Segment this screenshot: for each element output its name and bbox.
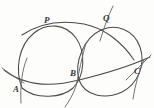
point-label-p: P [44, 16, 50, 25]
arc-left-tail [2, 68, 24, 83]
point-label-b: B [70, 69, 76, 78]
arc-left-circle [18, 26, 82, 96]
arc-right-circle [78, 27, 142, 96]
point-label-q: Q [103, 14, 110, 23]
arc-group [2, 6, 151, 107]
point-label-c: C [134, 67, 140, 76]
geometry-diagram: P Q A B C [0, 0, 154, 108]
point-label-a: A [13, 85, 19, 94]
diagram-canvas [0, 0, 154, 108]
